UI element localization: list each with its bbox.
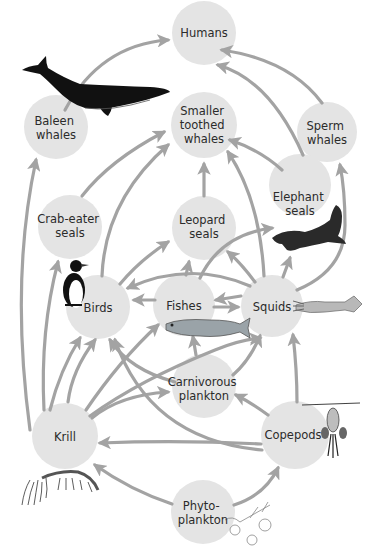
label-squids: Squids (253, 300, 291, 314)
arrow-krill-to-baleen (21, 160, 36, 430)
label-krill: Krill (54, 430, 76, 444)
squid-illustration (293, 296, 362, 313)
label-smaller-toothed-whales: Smaller toothed whales (180, 104, 228, 146)
arrow-copepods-to-carnivorous (236, 395, 268, 415)
arrow-squids-to-fishes (216, 296, 241, 300)
arrow-phytoplankton-to-krill (95, 465, 172, 504)
krill-illustration (22, 472, 98, 505)
arrow-carnivorous-to-fishes (193, 337, 196, 355)
arrow-squids-to-elephant (283, 258, 290, 277)
arrow-copepods-to-krill (100, 442, 261, 444)
label-fishes: Fishes (166, 299, 201, 313)
label-sperm-whales: Sperm whales (306, 119, 347, 147)
arrow-phytoplankton-to-copepods (234, 468, 278, 505)
arrow-copepods-to-squids (293, 335, 297, 402)
label-copepods: Copepods (264, 428, 321, 442)
arrow-sperm-to-humans (222, 50, 322, 103)
label-birds: Birds (84, 301, 113, 315)
label-phytoplankton: Phyto- plankton (178, 499, 228, 527)
arrow-carnivorous-to-birds (110, 340, 175, 382)
label-humans: Humans (180, 26, 227, 40)
label-baleen-whales: Baleen whales (34, 114, 77, 142)
arrow-squids-to-leopard (228, 252, 255, 282)
food-web-diagram: Humans Baleen whales Smaller toothed wha… (0, 0, 379, 554)
arrow-crabeater-to-smaller (82, 132, 164, 196)
